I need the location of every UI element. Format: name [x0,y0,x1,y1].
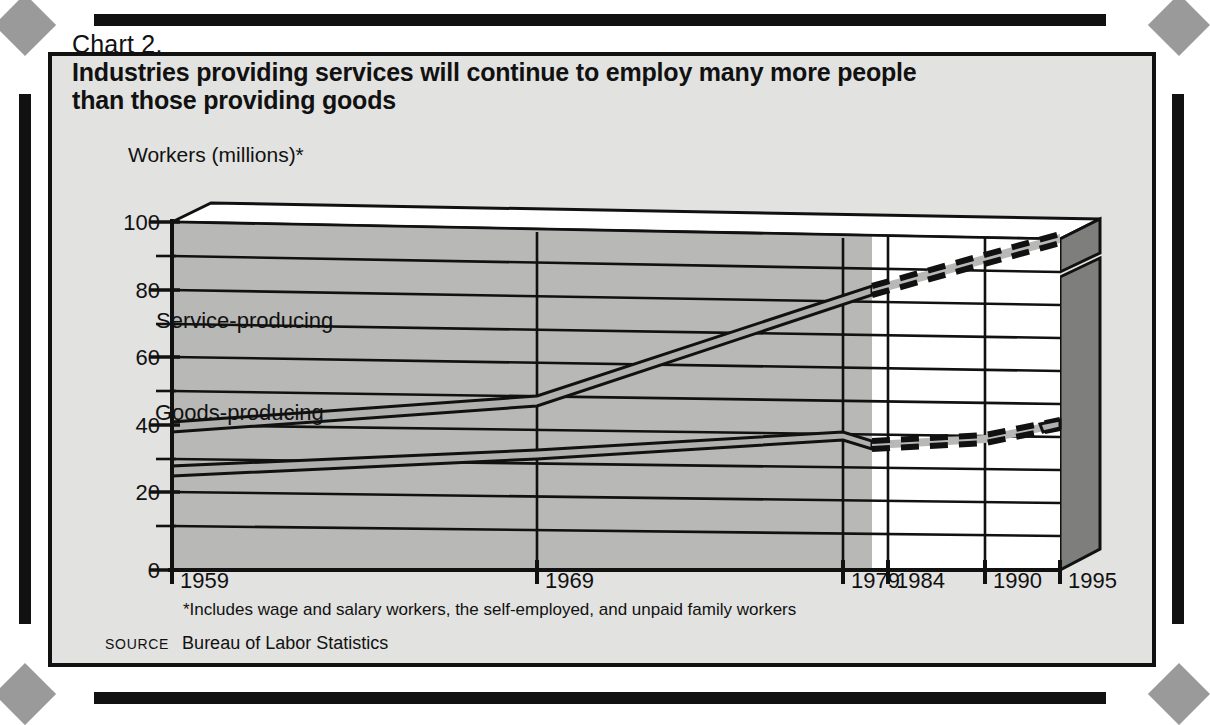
x-tick-label: 1990 [993,568,1042,594]
series-label-service-producing: Service-producing [156,308,333,334]
y-tick-label: 80 [102,278,160,304]
source-label: SOURCE [105,636,169,652]
x-tick-label: 1979 [851,568,900,594]
chart-right-face-lower [1060,258,1100,570]
y-tick-label: 100 [102,210,160,236]
y-tick-label: 60 [102,345,160,371]
x-tick-label: 1969 [545,568,594,594]
y-tick-label: 40 [102,413,160,439]
source-value: Bureau of Labor Statistics [182,633,388,654]
y-tick-label: 20 [102,480,160,506]
x-tick-label: 1995 [1068,568,1117,594]
x-tick-label: 1959 [180,568,229,594]
y-tick-label: 0 [102,558,160,584]
source-row: SOURCE Bureau of Labor Statistics [105,633,388,654]
x-tick-label: 1984 [896,568,945,594]
footnote: *Includes wage and salary workers, the s… [183,600,796,620]
series-label-goods-producing: Goods-producing [155,400,324,426]
